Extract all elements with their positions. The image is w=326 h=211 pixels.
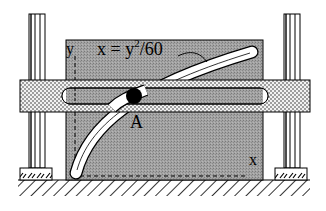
mechanism-diagram	[0, 0, 326, 211]
pin-A-label: A	[130, 113, 143, 131]
right-foot	[275, 168, 307, 180]
pin-A	[126, 88, 142, 104]
x-axis-label: x	[249, 152, 257, 168]
ground	[18, 180, 310, 196]
horizontal-slotted-bar	[20, 80, 310, 112]
curve-equation-label: x = y2/60	[97, 38, 163, 58]
bar-slot	[62, 88, 268, 104]
y-axis-label: y	[66, 41, 74, 57]
left-foot	[20, 168, 52, 180]
